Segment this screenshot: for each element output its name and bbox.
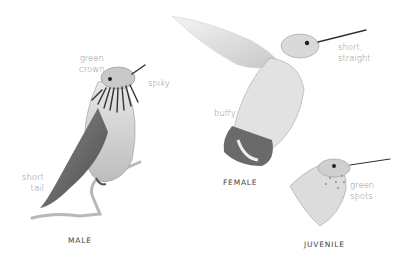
juvenile-hummingbird-drawing — [290, 159, 390, 226]
male-eye — [108, 77, 112, 81]
note-short-tail: short tail — [22, 172, 44, 194]
female-hummingbird-drawing — [172, 16, 366, 166]
illustration — [0, 0, 399, 262]
note-green-crown: green crown — [79, 53, 105, 75]
male-bill — [132, 65, 145, 74]
female-head — [281, 34, 319, 58]
note-short-straight: short, straight — [338, 42, 371, 64]
male-hummingbird-drawing — [32, 65, 145, 218]
note-green-spots: green spots — [350, 180, 374, 202]
caption-juvenile: JUVENILE — [304, 240, 345, 249]
juvenile-bill — [350, 159, 390, 165]
female-bill — [318, 30, 366, 42]
note-spiky: spiky — [148, 78, 170, 89]
female-eye — [305, 41, 309, 45]
juvenile-eye — [332, 164, 336, 168]
caption-male: MALE — [68, 236, 92, 245]
note-buffy: buffy — [214, 108, 236, 119]
caption-female: FEMALE — [223, 178, 257, 187]
female-wing — [172, 16, 280, 68]
